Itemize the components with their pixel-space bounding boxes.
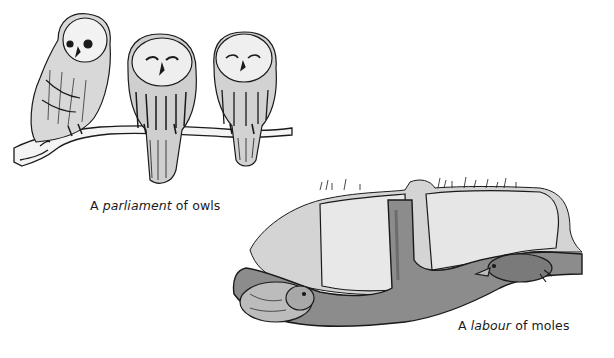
- mole-left: [240, 282, 314, 322]
- owl-right: [214, 32, 277, 166]
- moles-caption-prefix: A: [458, 318, 471, 333]
- owl-middle: [128, 34, 197, 183]
- owl-left: [31, 14, 110, 142]
- owls-caption-suffix: of owls: [172, 198, 221, 213]
- owls-caption-prefix: A: [90, 198, 103, 213]
- moles-caption: A labour of moles: [458, 318, 570, 333]
- owls-caption: A parliament of owls: [90, 198, 220, 213]
- owls-caption-emphasis: parliament: [103, 198, 172, 213]
- moles-caption-emphasis: labour: [471, 318, 511, 333]
- moles-caption-suffix: of moles: [511, 318, 569, 333]
- owls-illustration: [0, 0, 300, 190]
